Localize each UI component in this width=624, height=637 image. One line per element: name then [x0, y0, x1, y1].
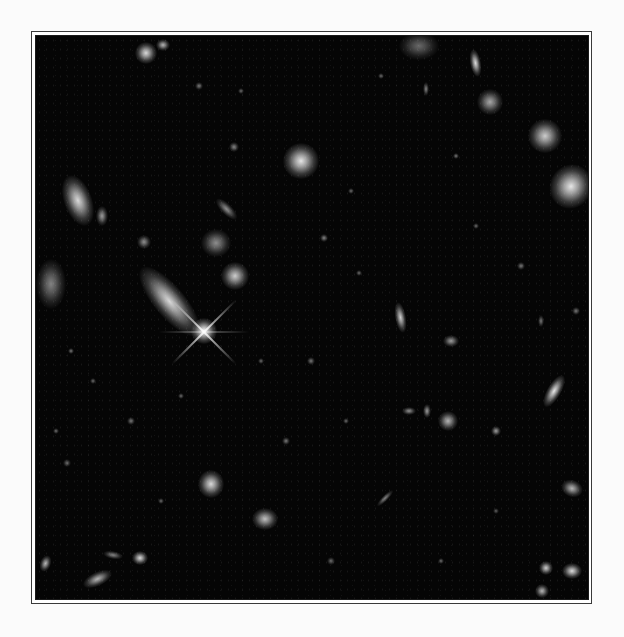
galaxy: [438, 411, 458, 431]
background-noise: [36, 36, 588, 599]
star: [517, 262, 525, 270]
star: [63, 459, 71, 467]
star: [127, 417, 135, 425]
galaxy: [137, 235, 151, 249]
galaxy: [36, 259, 67, 309]
galaxy: [535, 584, 549, 598]
galaxy: [528, 119, 562, 153]
galaxy: [201, 229, 232, 257]
galaxy: [538, 315, 544, 326]
galaxy: [221, 262, 249, 290]
deep-field-image: [35, 35, 589, 600]
star: [195, 82, 203, 90]
star: [491, 426, 501, 436]
galaxy: [198, 470, 223, 498]
galaxy: [132, 551, 149, 565]
star: [327, 557, 335, 565]
galaxy: [562, 563, 582, 580]
star: [320, 234, 328, 242]
star: [572, 307, 580, 315]
star: [282, 437, 290, 445]
galaxy: [96, 206, 107, 226]
galaxy: [539, 561, 553, 575]
star: [229, 142, 239, 152]
star: [307, 357, 315, 365]
galaxy: [423, 82, 429, 96]
galaxy: [443, 335, 460, 346]
diffraction-spike: [159, 331, 249, 333]
